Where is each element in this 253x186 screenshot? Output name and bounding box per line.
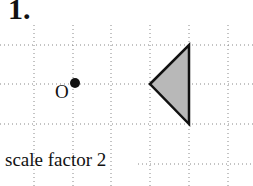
center-of-enlargement-dot (70, 78, 80, 88)
scale-factor-caption: scale factor 2 (5, 150, 106, 169)
center-label: O (55, 82, 69, 101)
triangle-shape (150, 45, 189, 124)
